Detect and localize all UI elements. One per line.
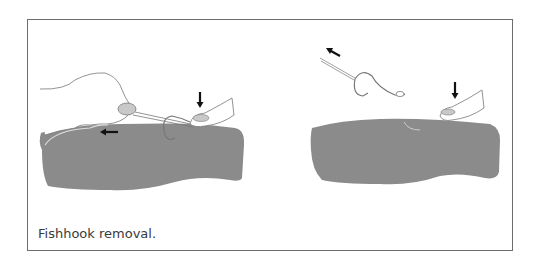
left-thumbnail [118, 103, 136, 115]
hook-eye [396, 91, 404, 96]
left-fingernail [193, 115, 209, 122]
right-skin-shape [311, 119, 500, 184]
figure-caption: Fishhook removal. [38, 226, 156, 241]
fishhook-removal-illustration [0, 0, 540, 264]
left-skin-shape [40, 124, 244, 191]
right-fingernail [441, 109, 455, 115]
up-left-arrow-icon [326, 48, 340, 56]
right-finger [440, 90, 484, 121]
left-finger [190, 98, 234, 127]
down-arrow-icon [197, 92, 204, 108]
down-arrow-icon [452, 82, 459, 99]
right-line [320, 58, 355, 80]
